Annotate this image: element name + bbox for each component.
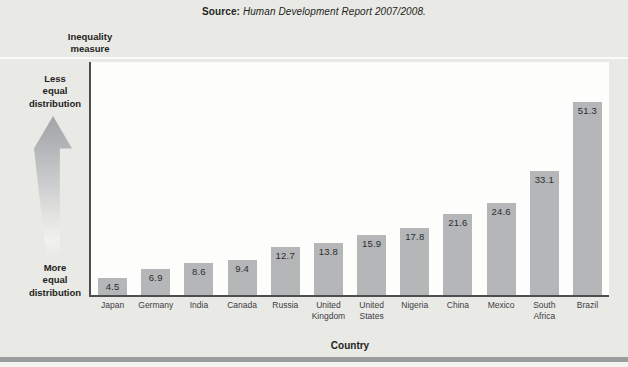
bar-slot: 21.6 (436, 214, 479, 295)
category-label: Brazil (566, 300, 609, 322)
bar-south-africa: 33.1 (530, 171, 559, 295)
y-axis-line (89, 62, 91, 297)
bottom-strip (0, 362, 628, 367)
category-label: Japan (91, 300, 134, 322)
bar-value-label: 33.1 (530, 171, 559, 185)
more-equal-label: More equal distribution (13, 262, 97, 299)
figure-container: Source: Human Development Report 2007/20… (0, 0, 628, 367)
bar-slot: 51.3 (566, 102, 609, 295)
source-text: Human Development Report 2007/2008. (240, 6, 426, 17)
category-labels-row: JapanGermanyIndiaCanadaRussiaUnited King… (91, 300, 609, 322)
bar-canada: 9.4 (228, 260, 257, 295)
bar-slot: 33.1 (523, 171, 566, 295)
source-caption: Source: Human Development Report 2007/20… (0, 6, 628, 17)
bar-value-label: 8.6 (184, 263, 213, 277)
bar-value-label: 9.4 (228, 260, 257, 274)
bar-value-label: 17.8 (400, 228, 429, 242)
bar-china: 21.6 (443, 214, 472, 295)
bar-india: 8.6 (184, 263, 213, 295)
bar-brazil: 51.3 (573, 102, 602, 295)
bar-japan: 4.5 (98, 278, 127, 295)
plot-area: 4.56.98.69.412.713.815.917.821.624.633.1… (91, 62, 609, 295)
bar-value-label: 51.3 (573, 102, 602, 116)
bar-slot: 9.4 (221, 260, 264, 295)
section-divider (0, 57, 628, 59)
bar-value-label: 6.9 (141, 269, 170, 283)
bar-slot: 12.7 (264, 247, 307, 295)
category-label: Canada (221, 300, 264, 322)
bars-row: 4.56.98.69.412.713.815.917.821.624.633.1… (91, 62, 609, 295)
bar-slot: 8.6 (177, 263, 220, 295)
bar-germany: 6.9 (141, 269, 170, 295)
bar-slot: 15.9 (350, 235, 393, 295)
bar-slot: 13.8 (307, 243, 350, 295)
bar-united-states: 15.9 (357, 235, 386, 295)
bar-russia: 12.7 (271, 247, 300, 295)
bar-nigeria: 17.8 (400, 228, 429, 295)
bar-value-label: 13.8 (314, 243, 343, 257)
category-label: United States (350, 300, 393, 322)
category-label: India (177, 300, 220, 322)
category-label: China (436, 300, 479, 322)
bar-value-label: 15.9 (357, 235, 386, 249)
source-label: Source: (202, 6, 240, 17)
category-label: United Kingdom (307, 300, 350, 322)
y-axis-title: Inequality measure (45, 31, 135, 55)
bar-value-label: 24.6 (487, 203, 516, 217)
up-arrow-icon (34, 116, 72, 257)
bar-slot: 4.5 (91, 278, 134, 295)
category-label: Nigeria (393, 300, 436, 322)
x-axis-title: Country (91, 340, 609, 351)
category-label: Russia (264, 300, 307, 322)
bar-slot: 17.8 (393, 228, 436, 295)
category-label: South Africa (523, 300, 566, 322)
bar-value-label: 4.5 (98, 278, 127, 292)
bar-slot: 24.6 (480, 203, 523, 295)
bar-value-label: 12.7 (271, 247, 300, 261)
bar-mexico: 24.6 (487, 203, 516, 295)
bar-slot: 6.9 (134, 269, 177, 295)
bar-value-label: 21.6 (443, 214, 472, 228)
category-label: Mexico (480, 300, 523, 322)
category-label: Germany (134, 300, 177, 322)
less-equal-label: Less equal distribution (13, 73, 97, 110)
x-axis-line (89, 295, 609, 297)
bar-united-kingdom: 13.8 (314, 243, 343, 295)
